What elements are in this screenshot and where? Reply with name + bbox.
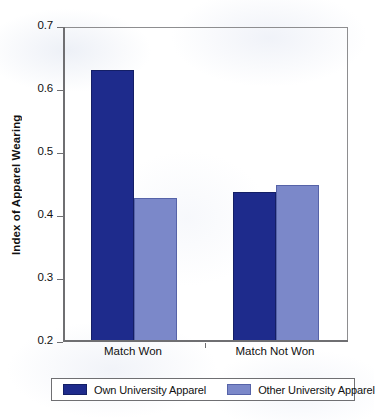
legend-swatch-other xyxy=(227,384,251,395)
x-tick-mid xyxy=(205,343,206,348)
y-tick-label-2: 0.4 xyxy=(38,208,53,220)
y-tick-label-3: 0.5 xyxy=(38,145,53,157)
bar-match-won-own xyxy=(91,70,134,341)
bar-match-not-won-own xyxy=(233,192,276,341)
legend-label-other: Other University Apparel xyxy=(258,384,375,396)
x-label-match-not-won: Match Not Won xyxy=(235,345,314,357)
legend-item-own: Own University Apparel xyxy=(63,384,206,396)
legend-label-own: Own University Apparel xyxy=(94,384,206,396)
legend-swatch-own xyxy=(63,384,87,395)
legend-item-other: Other University Apparel xyxy=(227,384,375,396)
y-tick-label-1: 0.3 xyxy=(38,271,53,283)
y-axis-title: Index of Apparel Wearing xyxy=(8,27,24,342)
x-label-match-won: Match Won xyxy=(104,345,162,357)
plot-area xyxy=(63,27,348,342)
y-tick-label-0: 0.2 xyxy=(38,334,53,346)
y-tick-label-4: 0.6 xyxy=(38,82,53,94)
legend: Own University Apparel Other University … xyxy=(51,378,355,401)
y-tick-label-5: 0.7 xyxy=(38,19,53,31)
bar-match-not-won-other xyxy=(276,185,319,341)
bar-match-won-other xyxy=(134,198,177,341)
